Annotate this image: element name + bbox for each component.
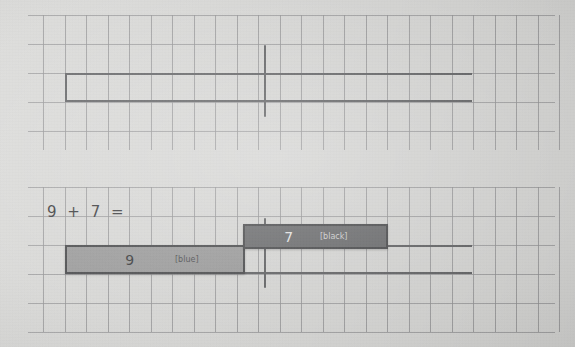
grid-line-horizontal <box>28 303 555 304</box>
addend-bar-7[interactable]: 7 [black] <box>243 224 388 249</box>
grid-line-horizontal <box>28 274 555 275</box>
bottom-grid-band <box>0 0 575 347</box>
addend-bar-9-tag: [blue] <box>175 255 199 264</box>
grid-line-vertical <box>559 187 560 332</box>
grid-line-vertical <box>43 187 44 332</box>
addend-bar-7-value: 7 <box>284 229 293 245</box>
worksheet-page: 9 + 7 = 9 [blue] 7 [black] <box>0 0 575 347</box>
grid-line-vertical <box>538 187 539 332</box>
grid-line-vertical <box>473 187 474 332</box>
total-bar-empty[interactable] <box>65 73 472 102</box>
addend-bar-9-value: 9 <box>125 252 134 268</box>
grid-line-vertical <box>516 187 517 332</box>
equation-label: 9 + 7 = <box>47 203 127 221</box>
grid-line-vertical <box>495 187 496 332</box>
addend-bar-7-tag: [black] <box>320 232 347 241</box>
grid-line-horizontal <box>28 332 555 333</box>
addend-bar-9[interactable]: 9 [blue] <box>65 245 245 274</box>
grid-line-horizontal <box>28 187 555 188</box>
